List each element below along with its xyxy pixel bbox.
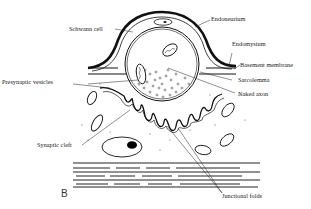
nucleolus bbox=[127, 141, 137, 149]
label-sarcolemma: Sarcolemma bbox=[238, 77, 269, 83]
naked-axon-terminal bbox=[125, 27, 199, 101]
schwann-nucleus bbox=[154, 19, 172, 25]
label-synaptic-cleft: Synaptic cleft bbox=[37, 142, 72, 148]
label-junctional-folds: Junctional folds bbox=[222, 193, 262, 199]
label-endoneurium: Endoneurium bbox=[211, 16, 245, 22]
label-schwann-cell: Schwann cell bbox=[69, 26, 103, 32]
label-basement-membrane: Basement membrane bbox=[240, 62, 293, 68]
neuromuscular-junction-diagram bbox=[0, 0, 311, 209]
label-endomysium: Endomysium bbox=[232, 41, 266, 47]
myofibrils bbox=[73, 163, 260, 187]
panel-letter: B bbox=[61, 189, 68, 199]
label-naked-axon: Naked axon bbox=[238, 91, 268, 97]
label-presynaptic-vesicles: Presynaptic vesicles bbox=[2, 79, 53, 85]
